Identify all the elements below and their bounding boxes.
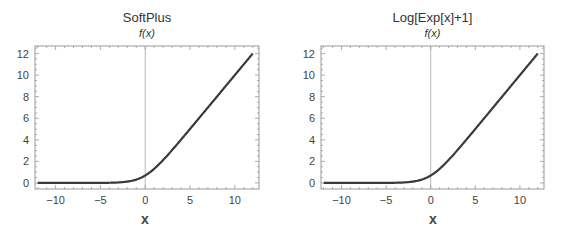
- y-tick-label: 10: [303, 69, 315, 81]
- x-tick-label: 0: [428, 194, 434, 206]
- y-tick-label: 12: [303, 48, 315, 60]
- y-tick-label: 0: [309, 177, 315, 189]
- chart-log-exp: Log[Exp[x]+1] f(x) −10−50510024681012 x: [0, 0, 562, 236]
- y-tick-label: 6: [309, 112, 315, 124]
- x-tick-label: 5: [472, 194, 478, 206]
- x-tick-label: −5: [380, 194, 393, 206]
- y-tick-label: 8: [309, 91, 315, 103]
- y-tick-label: 4: [309, 134, 315, 146]
- y-tick-label: 2: [309, 155, 315, 167]
- x-tick-label: −10: [332, 194, 351, 206]
- x-tick-label: 10: [514, 194, 526, 206]
- plot-frame: [321, 46, 544, 189]
- x-axis-label: x: [423, 211, 443, 227]
- plot-area: −10−50510024681012: [0, 0, 562, 236]
